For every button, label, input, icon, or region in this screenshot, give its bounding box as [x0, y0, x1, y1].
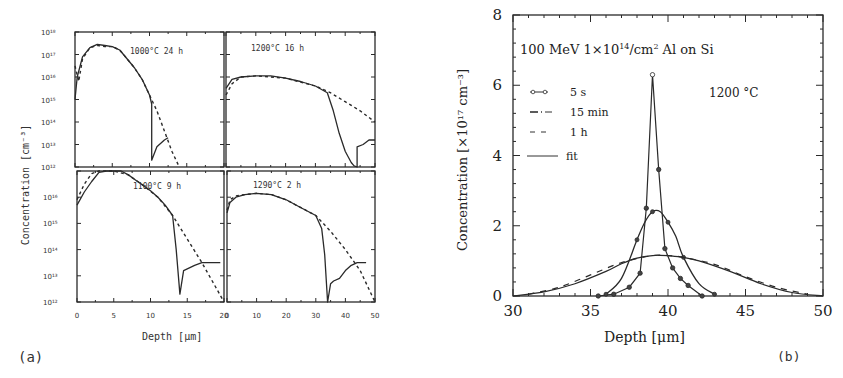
x-tick-label: 50	[371, 312, 380, 320]
data-point	[651, 210, 655, 214]
panel-a-ylabel: Concentration [cm⁻³]	[20, 125, 31, 245]
x-tick-label: 40	[341, 312, 350, 320]
x-tick-label: 0	[225, 312, 229, 320]
data-point	[604, 292, 608, 296]
y-tick-label: 6	[492, 76, 502, 94]
panel-a: 10¹²10¹³10¹⁴10¹⁵10¹⁶10¹⁷10¹⁸10¹²10¹³10¹⁴…	[41, 29, 379, 320]
x-tick-label: 15	[183, 312, 192, 320]
panel-b-title: 100 MeV 1×1014/cm2 Al on Si	[520, 42, 714, 57]
x-tick-label: 35	[581, 302, 600, 320]
data-point	[644, 206, 648, 210]
y-tick-label: 10¹⁴	[43, 247, 58, 255]
legend-item-fit: fit	[527, 150, 578, 163]
x-tick-label: 20	[282, 312, 291, 320]
y-tick-label: 10¹⁵	[41, 97, 56, 105]
data-point	[713, 292, 717, 296]
data-point	[612, 292, 616, 296]
y-tick-label: 10¹⁷	[41, 52, 56, 60]
subplot-3-annotation: 1100°C 9 h	[133, 182, 181, 191]
figure: 10¹²10¹³10¹⁴10¹⁵10¹⁶10¹⁷10¹⁸10¹²10¹³10¹⁴…	[0, 0, 843, 378]
x-tick-label: 45	[736, 302, 755, 320]
data-point	[657, 167, 661, 171]
x-tick-label: 0	[75, 312, 79, 320]
y-tick-label: 2	[492, 217, 502, 235]
legend-label-5s: 5 s	[570, 86, 586, 99]
panel-b-temperature: 1200 °C	[709, 86, 759, 100]
x-tick-label: 40	[658, 302, 677, 320]
data-point	[670, 266, 674, 270]
y-tick-label: 10¹⁵	[43, 220, 58, 228]
legend-item-1h: 1 h	[530, 126, 588, 139]
subplot-4-annotation: 1290°C 2 h	[253, 181, 301, 190]
y-tick-label: 10¹⁴	[41, 119, 56, 127]
data-point	[678, 276, 682, 280]
subplot-3: 10¹²10¹³10¹⁴10¹⁵10¹⁶	[43, 171, 224, 307]
y-tick-label: 4	[492, 147, 502, 165]
data-point	[686, 283, 690, 287]
data-point	[627, 285, 631, 289]
data-point	[635, 238, 639, 242]
x-tick-label: 10	[252, 312, 261, 320]
plot-frame	[513, 15, 823, 296]
series-measured	[75, 44, 168, 160]
series-simulated	[226, 76, 375, 122]
x-tick-label: 30	[503, 302, 522, 320]
data-point	[700, 294, 704, 298]
y-tick-label: 10¹³	[41, 142, 56, 150]
subplot-1-annotation: 1000°C 24 h	[130, 47, 183, 56]
x-tick-label: 10	[146, 312, 155, 320]
legend-item-15min: 15 min	[530, 106, 609, 119]
data-point	[638, 271, 642, 275]
panel-b-caption: (b)	[777, 349, 800, 364]
y-tick-label: 10¹²	[41, 164, 56, 172]
data-point	[666, 220, 670, 224]
series-1-h	[529, 255, 808, 294]
y-tick-label: 10¹²	[43, 299, 58, 307]
series-measured	[227, 193, 366, 302]
y-tick-label: 10¹⁶	[43, 194, 58, 202]
y-tick-label: 0	[492, 287, 502, 305]
legend: 5 s 15 min 1 h fit	[527, 86, 609, 163]
series-simulated	[75, 46, 179, 168]
y-tick-label: 10¹⁶	[41, 74, 56, 82]
series-simulated	[227, 193, 375, 302]
data-point	[663, 246, 667, 250]
x-tick-label: 50	[813, 302, 832, 320]
panel-b-ylabel: Concentration [×10¹⁷ cm⁻³]	[455, 69, 470, 251]
panel-a-caption: (a)	[18, 349, 43, 365]
y-tick-label: 10¹⁸	[41, 29, 56, 37]
x-tick-label: 5	[112, 312, 116, 320]
subplot-frame	[227, 171, 375, 302]
legend-label-fit: fit	[566, 150, 578, 163]
data-point	[596, 294, 600, 298]
subplot-2-annotation: 1200°C 16 h	[251, 44, 304, 53]
series-measured	[226, 76, 375, 167]
series-15-min	[606, 210, 715, 294]
subplot-4	[227, 171, 375, 302]
legend-label-15min: 15 min	[570, 106, 609, 119]
x-tick-label: 30	[311, 312, 320, 320]
y-tick-label: 8	[492, 6, 502, 24]
legend-label-1h: 1 h	[570, 126, 588, 139]
data-point	[650, 73, 654, 77]
panel-a-xlabel: Depth [μm]	[142, 331, 202, 342]
panel-b-xlabel: Depth [μm]	[604, 329, 685, 345]
y-tick-label: 10¹³	[43, 273, 58, 281]
legend-item-5s: 5 s	[530, 86, 586, 99]
